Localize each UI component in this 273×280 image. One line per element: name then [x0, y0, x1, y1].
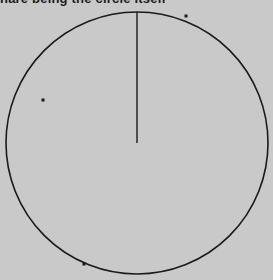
circle-diagram: [0, 0, 273, 280]
dot-marker: [185, 15, 188, 18]
dots-group: [42, 15, 188, 266]
dot-marker: [83, 263, 86, 266]
dot-marker: [42, 99, 45, 102]
